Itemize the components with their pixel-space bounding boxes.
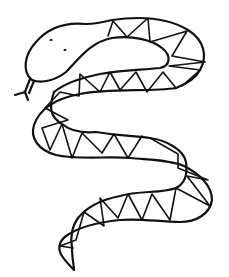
left-bend-inner	[51, 92, 150, 138]
eye-icon	[63, 49, 66, 51]
zigzag-middle	[42, 72, 176, 158]
tongue	[15, 79, 34, 100]
eye-icon	[49, 39, 52, 41]
zigzag-top	[108, 18, 205, 86]
inner-top-loop	[32, 37, 169, 92]
eyes	[49, 39, 66, 51]
snake-illustration	[0, 0, 229, 277]
zigzag-pattern	[42, 18, 210, 248]
snake-drawing	[0, 0, 229, 277]
head-outline	[26, 18, 204, 88]
snake-outline	[15, 18, 212, 270]
